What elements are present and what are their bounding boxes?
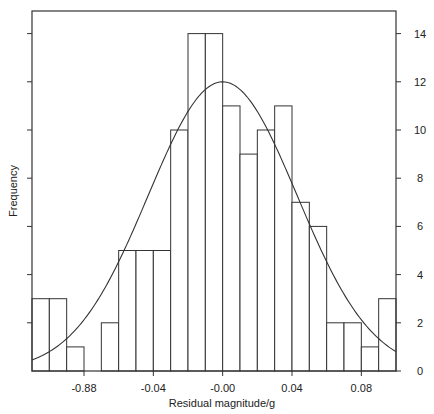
histogram-bar [188, 34, 205, 371]
histogram-bar [361, 347, 378, 371]
x-tick-label: 0.04 [281, 382, 302, 394]
histogram-bar [292, 202, 309, 371]
histogram-bar [119, 251, 136, 372]
y-tick-label: 10 [414, 124, 426, 136]
y-axis-right-ticks: 02468101214 [396, 28, 426, 377]
histogram-bar [153, 251, 170, 372]
x-axis-title: Residual magnitude/g [169, 397, 275, 409]
histogram-bar [240, 154, 257, 371]
y-tick-label: 12 [414, 76, 426, 88]
histogram-bar [49, 299, 66, 371]
histogram-bar [309, 226, 326, 371]
histogram-chart: 02468101214 -0.88-0.04-0.000.040.08 Resi… [0, 0, 434, 414]
x-tick-label: 0.08 [351, 382, 372, 394]
y-axis-title: Frequency [7, 165, 19, 217]
x-tick-label: -0.00 [210, 382, 235, 394]
histogram-bar [136, 251, 153, 372]
histogram-bar [223, 106, 240, 371]
histogram-bar [379, 299, 396, 371]
histogram-bar [344, 323, 361, 371]
y-axis-left-ticks [27, 34, 32, 323]
x-axis-ticks: -0.88-0.04-0.000.040.08 [71, 371, 372, 394]
y-tick-label: 8 [417, 172, 423, 184]
x-tick-label: -0.04 [141, 382, 166, 394]
histogram-bar [32, 299, 49, 371]
y-tick-label: 4 [417, 269, 423, 281]
x-tick-label: -0.88 [71, 382, 96, 394]
histogram-bar [171, 130, 188, 371]
histogram-bar [257, 130, 274, 371]
y-tick-label: 6 [417, 220, 423, 232]
y-tick-label: 14 [414, 28, 426, 40]
y-tick-label: 2 [417, 317, 423, 329]
histogram-bar [101, 323, 118, 371]
y-tick-label: 0 [417, 365, 423, 377]
histogram-bar [275, 106, 292, 371]
histogram-bar [67, 347, 84, 371]
histogram-bar [327, 323, 344, 371]
